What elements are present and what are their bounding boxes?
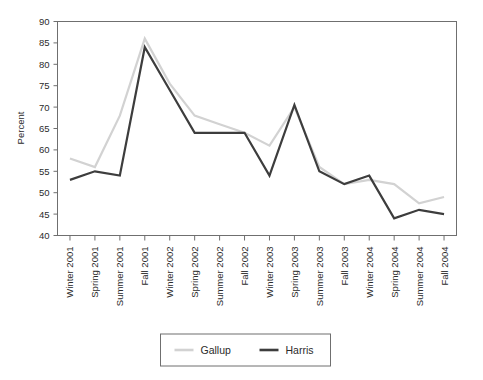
data-series-group xyxy=(70,39,444,219)
line-chart-svg: 4045505560657075808590 Percent Winter 20… xyxy=(0,0,483,380)
y-tick-label: 70 xyxy=(39,102,50,113)
x-tick-label: Summer 2003 xyxy=(314,247,325,307)
plot-frame xyxy=(58,22,457,236)
x-tick-label: Fall 2004 xyxy=(439,247,450,286)
y-tick-label: 85 xyxy=(39,37,50,48)
y-tick-label: 55 xyxy=(39,166,50,177)
y-tick-label: 45 xyxy=(39,209,50,220)
x-tick-label: Winter 2001 xyxy=(64,247,75,298)
x-tick-label: Spring 2003 xyxy=(289,247,300,298)
chart-figure: 4045505560657075808590 Percent Winter 20… xyxy=(0,0,483,380)
y-tick-label: 60 xyxy=(39,144,50,155)
x-tick-label: Fall 2001 xyxy=(139,247,150,286)
x-tick-label: Summer 2001 xyxy=(114,247,125,307)
x-tick-label: Winter 2003 xyxy=(264,247,275,298)
chart-legend: GallupHarris xyxy=(161,334,331,366)
x-tick-label: Summer 2002 xyxy=(214,247,225,307)
x-axis-ticks xyxy=(70,236,444,241)
x-tick-label: Spring 2001 xyxy=(89,247,100,298)
y-axis-ticks xyxy=(54,22,58,236)
x-tick-label: Winter 2002 xyxy=(164,247,175,298)
x-tick-label: Summer 2004 xyxy=(414,247,425,307)
x-tick-label: Spring 2002 xyxy=(189,247,200,298)
x-tick-label: Fall 2002 xyxy=(239,247,250,286)
y-tick-label: 65 xyxy=(39,123,50,134)
y-axis-tick-labels: 4045505560657075808590 xyxy=(39,16,50,241)
legend-label-gallup: Gallup xyxy=(201,344,232,356)
y-tick-label: 75 xyxy=(39,80,50,91)
legend-label-harris: Harris xyxy=(286,344,314,356)
x-tick-label: Fall 2003 xyxy=(339,247,350,286)
y-tick-label: 50 xyxy=(39,187,50,198)
x-tick-label: Spring 2004 xyxy=(389,247,400,298)
series-line-gallup xyxy=(70,39,444,204)
series-line-harris xyxy=(70,47,444,218)
y-tick-label: 40 xyxy=(39,230,50,241)
x-axis-tick-labels: Winter 2001Spring 2001Summer 2001Fall 20… xyxy=(64,247,449,307)
x-tick-label: Winter 2004 xyxy=(364,247,375,298)
y-tick-label: 90 xyxy=(39,16,50,27)
y-axis-title: Percent xyxy=(15,111,26,144)
y-tick-label: 80 xyxy=(39,59,50,70)
